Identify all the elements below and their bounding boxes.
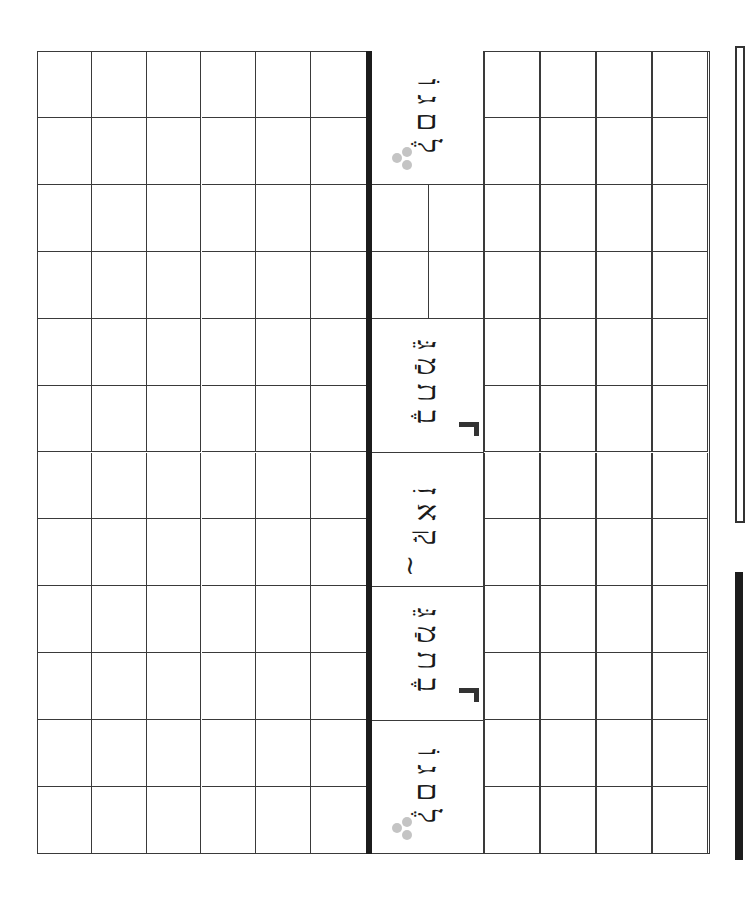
grid-cell	[596, 519, 652, 586]
grid-cell	[147, 386, 202, 453]
grid-cell	[147, 185, 202, 252]
grid-cell	[311, 386, 366, 453]
grid-cell	[256, 720, 311, 787]
grid-cell	[596, 51, 652, 118]
grid-cell	[652, 185, 708, 252]
grid-cell	[92, 252, 147, 319]
grid-cell	[484, 519, 540, 586]
empty-word-slot	[372, 185, 484, 319]
side-bracket-outline	[735, 46, 745, 523]
grid-cell	[202, 720, 257, 787]
grid-cell	[256, 519, 311, 586]
word-cell-3: קָאזִ ~	[372, 453, 484, 587]
tilde-icon: ~	[396, 555, 426, 577]
grid-cell	[256, 586, 311, 653]
grid-cell	[596, 118, 652, 185]
grid-cell	[311, 453, 366, 520]
grid-cell	[37, 185, 92, 252]
grid-cell	[311, 720, 366, 787]
grid-cell	[37, 586, 92, 653]
grid-cell	[540, 386, 596, 453]
grid-cell	[37, 720, 92, 787]
grid-cell	[92, 519, 147, 586]
word-part: מַגֵּ	[410, 339, 445, 383]
grid-cell	[596, 720, 652, 787]
grid-cell	[540, 653, 596, 720]
grid-cell	[311, 319, 366, 386]
grid-cell	[484, 586, 540, 653]
grid-cell	[484, 185, 540, 252]
grid-cell	[147, 519, 202, 586]
grid-cell	[596, 653, 652, 720]
word-part: בֶת	[410, 651, 445, 700]
word-part: לֶם	[410, 782, 445, 831]
grid-cell	[311, 653, 366, 720]
grid-cell	[256, 319, 311, 386]
word-part: זִ	[410, 486, 445, 502]
grid-cell	[311, 586, 366, 653]
grid-cell	[256, 386, 311, 453]
grid-cell	[202, 51, 257, 118]
grid-cell	[147, 319, 202, 386]
grid-cell	[596, 252, 652, 319]
word-text-3: קָאזִ	[410, 486, 445, 552]
word-part: בֶת	[410, 383, 445, 432]
grid-cell	[37, 653, 92, 720]
grid-cell	[202, 653, 257, 720]
word-part: לֶם	[410, 113, 445, 162]
grid-cell	[540, 319, 596, 386]
grid-cell	[540, 252, 596, 319]
grid-cell	[37, 118, 92, 185]
grid-cell	[484, 386, 540, 453]
grid-cell	[256, 185, 311, 252]
grid-cell	[652, 51, 708, 118]
grid-cell	[92, 787, 147, 854]
grid-cell	[202, 453, 257, 520]
grid-cell	[652, 118, 708, 185]
grid-cell	[147, 720, 202, 787]
grid-cell	[652, 519, 708, 586]
grid-cell	[92, 720, 147, 787]
grid-cell	[311, 787, 366, 854]
grid-cell	[484, 118, 540, 185]
grid-cell	[92, 185, 147, 252]
grid-cell	[540, 586, 596, 653]
word-part: גוֹ	[410, 79, 445, 113]
grid-cell	[147, 252, 202, 319]
grid-cell	[202, 319, 257, 386]
grid-cell	[37, 252, 92, 319]
grid-cell	[484, 453, 540, 520]
grid-cell	[37, 51, 92, 118]
grid-cell	[92, 51, 147, 118]
word-text-4: בֶתמַגֵּ	[410, 607, 445, 699]
grid-cell	[652, 720, 708, 787]
grid-cell	[540, 787, 596, 854]
grid-cell	[652, 586, 708, 653]
grid-cell	[202, 386, 257, 453]
word-cell-4: בֶתמַגֵּ	[372, 587, 484, 721]
grid-cell	[202, 252, 257, 319]
word-cell-5: לֶםגוֹ	[372, 721, 484, 854]
grid-cell	[37, 787, 92, 854]
corner-mark-icon	[459, 422, 479, 436]
grid-cell	[92, 319, 147, 386]
grid-cell	[596, 453, 652, 520]
grid-cell	[37, 319, 92, 386]
grid-cell	[147, 787, 202, 854]
grid-cell	[92, 453, 147, 520]
grid-cell	[311, 252, 366, 319]
grid-cell	[256, 787, 311, 854]
word-part: מַגֵּ	[410, 607, 445, 651]
grid-cell	[202, 185, 257, 252]
grid-cell	[652, 252, 708, 319]
corner-mark-icon	[459, 688, 479, 702]
grid-cell	[147, 51, 202, 118]
grid-cell	[202, 586, 257, 653]
grid-cell	[92, 386, 147, 453]
grid-cell	[311, 51, 366, 118]
grid-cell	[596, 185, 652, 252]
grid-cell	[256, 51, 311, 118]
word-text-5: לֶםגוֹ	[410, 748, 445, 830]
grid-cell	[256, 118, 311, 185]
grid-cell	[202, 519, 257, 586]
